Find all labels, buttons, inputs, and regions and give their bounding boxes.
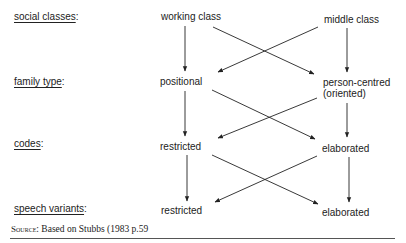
arrow-middle-to-positional — [218, 27, 318, 72]
arrow-personcentred-to-restricted — [218, 98, 317, 138]
source-caption: Source: Based on Stubbs (1983 p.59 — [11, 224, 148, 234]
arrow-elaborated-to-restricted — [215, 156, 317, 202]
source-text: Based on Stubbs (1983 p.59 — [41, 224, 148, 234]
arrow-positional-to-elaborated — [212, 90, 315, 139]
arrows-layer — [0, 0, 406, 243]
bottom-rule — [10, 238, 395, 239]
source-prefix: Source — [11, 224, 36, 234]
